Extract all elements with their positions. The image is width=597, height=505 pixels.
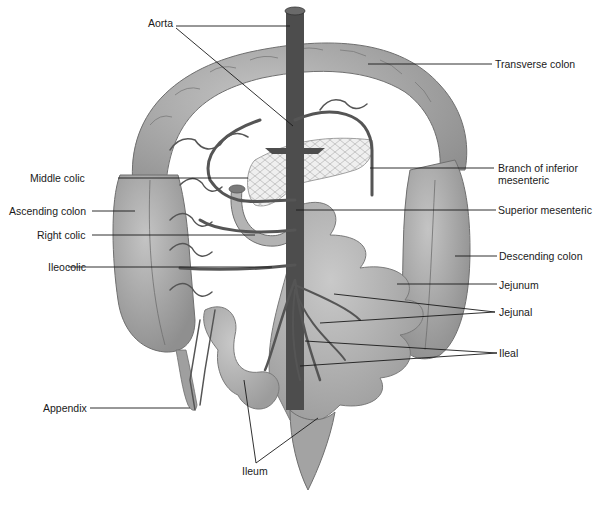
label-middle-colic: Middle colic xyxy=(30,172,85,184)
label-superior-mesenteric: Superior mesenteric xyxy=(498,204,592,216)
label-right-colic: Right colic xyxy=(37,229,85,241)
label-aorta: Aorta xyxy=(148,17,173,29)
label-ileal: Ileal xyxy=(499,347,518,359)
ileum-shape xyxy=(204,307,279,409)
label-branch-inferior-mesenteric-line2: mesenteric xyxy=(498,174,549,186)
label-descending-colon: Descending colon xyxy=(499,250,582,262)
label-branch-inferior-mesenteric: Branch of inferior xyxy=(498,162,578,174)
label-ileum: Ileum xyxy=(242,465,268,477)
label-jejunum: Jejunum xyxy=(499,279,539,291)
ascending-colon-shape xyxy=(113,175,195,352)
label-appendix: Appendix xyxy=(43,402,87,414)
label-transverse-colon: Transverse colon xyxy=(495,58,575,70)
label-ascending-colon: Ascending colon xyxy=(9,205,86,217)
label-ileocolic: Ileocolic xyxy=(48,261,86,273)
label-jejunal: Jejunal xyxy=(499,306,532,318)
